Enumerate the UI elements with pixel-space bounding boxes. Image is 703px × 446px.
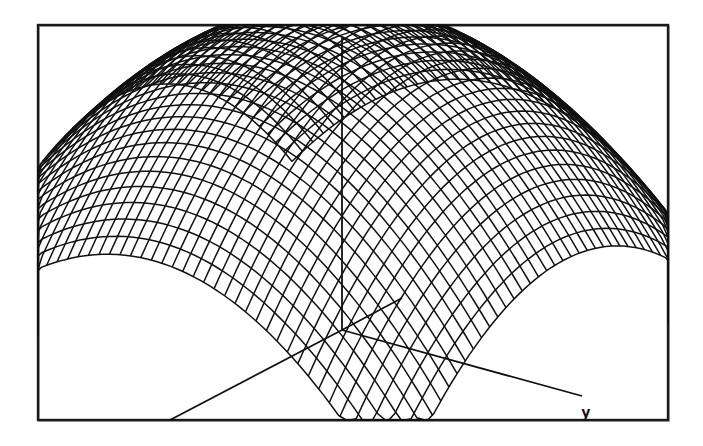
mesh-line bbox=[371, 211, 668, 420]
surface-plot: y bbox=[0, 0, 703, 446]
mesh-line bbox=[251, 37, 668, 281]
mesh-line bbox=[214, 36, 564, 289]
mesh-line bbox=[266, 78, 616, 331]
mesh-line bbox=[392, 246, 668, 420]
wireframe-mesh bbox=[38, 25, 668, 420]
x-axis-line bbox=[170, 330, 342, 420]
mesh-line bbox=[225, 43, 575, 296]
y-axis-label: y bbox=[581, 403, 591, 422]
mesh-line bbox=[146, 25, 596, 248]
mesh-line bbox=[78, 25, 428, 257]
mesh-line bbox=[38, 84, 292, 337]
